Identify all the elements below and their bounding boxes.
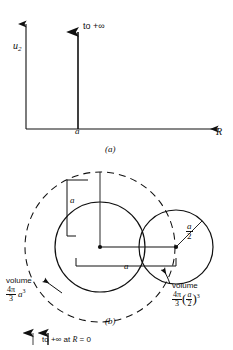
y-axis-label: u2 [13, 41, 22, 53]
left-volume-annotation: volume 4π 3 a3 [6, 276, 32, 304]
right-volume-denominator: 3 [172, 300, 182, 308]
radius-label-denominator: 2 [186, 232, 193, 241]
panel-b-label-a-lower: a [124, 262, 129, 271]
legend-arrow-icon [28, 332, 38, 346]
y-axis-label-subscript: 2 [18, 45, 22, 53]
spike-infinity-label: to +∞ [83, 22, 105, 31]
x-axis-label: R [216, 127, 222, 137]
left-volume-leader-arrow [44, 280, 62, 293]
left-volume-exponent: 3 [23, 288, 26, 294]
right-sphere-radius-label: a 2 [186, 222, 193, 241]
upper-a-bracket [67, 172, 100, 247]
panel-b-caption: (b) [105, 317, 116, 326]
right-volume-word: volume [172, 281, 200, 290]
figure-root: u2 to +∞ a R (a) a a a 2 volume 4π 3 a3 … [0, 0, 233, 350]
panel-a-caption: (a) [105, 145, 116, 154]
left-volume-denominator: 3 [6, 295, 16, 303]
legend-text-before: to +∞ at [42, 335, 72, 344]
x-axis-tick-label-a: a [75, 127, 80, 136]
legend-text-after: = 0 [77, 335, 91, 344]
panel-b-label-a-upper: a [70, 196, 75, 205]
right-volume-expression: 4π 3 ( a 2 )3 [172, 291, 200, 308]
panel-a-axes [26, 24, 218, 129]
left-volume-word: volume [6, 276, 32, 285]
legend-label: to +∞ at R = 0 [42, 335, 91, 344]
right-volume-annotation: volume 4π 3 ( a 2 )3 [172, 281, 200, 309]
right-volume-exponent: 3 [197, 293, 200, 299]
left-volume-expression: 4π 3 a3 [6, 286, 32, 303]
bottom-legend: to +∞ at R = 0 [28, 332, 91, 346]
